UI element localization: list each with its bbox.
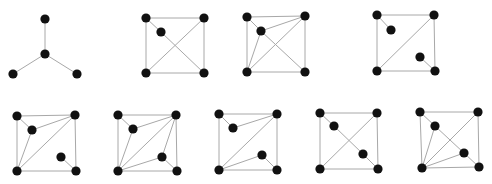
graph-node — [141, 68, 150, 77]
graph-g1 — [8, 14, 81, 78]
graph-edge — [13, 54, 45, 74]
graph-node — [430, 66, 439, 75]
graph-node — [257, 150, 266, 159]
graph-node — [430, 121, 439, 130]
graph-node — [300, 67, 309, 76]
graph-node — [40, 14, 49, 23]
graph-node — [27, 125, 36, 134]
graph-node — [171, 110, 180, 119]
graph-edge — [377, 113, 378, 169]
graph-node — [315, 108, 324, 117]
graph-edge — [334, 126, 363, 154]
graph-node — [429, 10, 438, 19]
graph-node — [12, 166, 21, 175]
graph-edge — [75, 115, 76, 171]
graph-node — [315, 164, 324, 173]
graph-edge — [118, 129, 133, 171]
graph-node — [329, 121, 338, 130]
graph-node — [272, 109, 281, 118]
graph-node — [199, 13, 208, 22]
graph-node — [172, 166, 181, 175]
graph-edge — [261, 16, 305, 31]
graph-node — [473, 107, 482, 116]
graph-node — [40, 49, 49, 58]
graph-node — [272, 165, 281, 174]
graph-node — [71, 166, 80, 175]
graph-edge — [247, 16, 305, 17]
graph-node — [242, 67, 251, 76]
graph-node — [372, 66, 381, 75]
graph-node — [415, 107, 424, 116]
graph-node — [56, 152, 65, 161]
graph-node — [358, 149, 367, 158]
graph-g8 — [315, 108, 382, 173]
graph-edge — [133, 115, 176, 129]
graph-g2 — [141, 13, 208, 77]
graph-edge — [45, 54, 77, 74]
graph-edge — [422, 153, 464, 168]
graph-node — [373, 164, 382, 173]
graph-node — [474, 162, 483, 171]
graph-g3 — [242, 11, 309, 76]
graph-node — [156, 27, 165, 36]
graph-node — [8, 69, 17, 78]
graph-g9 — [415, 107, 483, 172]
graph-node — [242, 12, 251, 21]
graph-node — [214, 165, 223, 174]
graph-node — [12, 111, 21, 120]
graph-g7 — [214, 109, 281, 174]
graph-edge — [219, 155, 262, 170]
graph-node — [386, 25, 395, 34]
graph-node — [372, 108, 381, 117]
graph-edge — [434, 15, 435, 71]
graph-node — [417, 163, 426, 172]
graph-node — [141, 13, 150, 22]
graph-edge — [422, 167, 479, 168]
graph-node — [157, 152, 166, 161]
graph-node — [372, 10, 381, 19]
graph-edge — [17, 130, 32, 171]
graph-edge — [420, 112, 422, 168]
graph-node — [459, 148, 468, 157]
graph-edge — [176, 115, 177, 171]
graph-edge — [32, 115, 75, 130]
graph-edge — [17, 115, 75, 116]
graph-diagram-canvas — [0, 0, 492, 184]
graph-node — [300, 11, 309, 20]
graph-node — [128, 124, 137, 133]
graph-node — [70, 110, 79, 119]
graph-node — [256, 26, 265, 35]
graph-node — [72, 69, 81, 78]
graph-node — [415, 52, 424, 61]
graph-node — [214, 109, 223, 118]
graph-node — [199, 68, 208, 77]
graph-node — [113, 166, 122, 175]
graph-g5 — [12, 110, 80, 175]
graph-edge — [478, 112, 479, 167]
graph-g4 — [372, 10, 439, 75]
graph-g6 — [113, 110, 181, 175]
graph-node — [113, 110, 122, 119]
graph-node — [228, 123, 237, 132]
